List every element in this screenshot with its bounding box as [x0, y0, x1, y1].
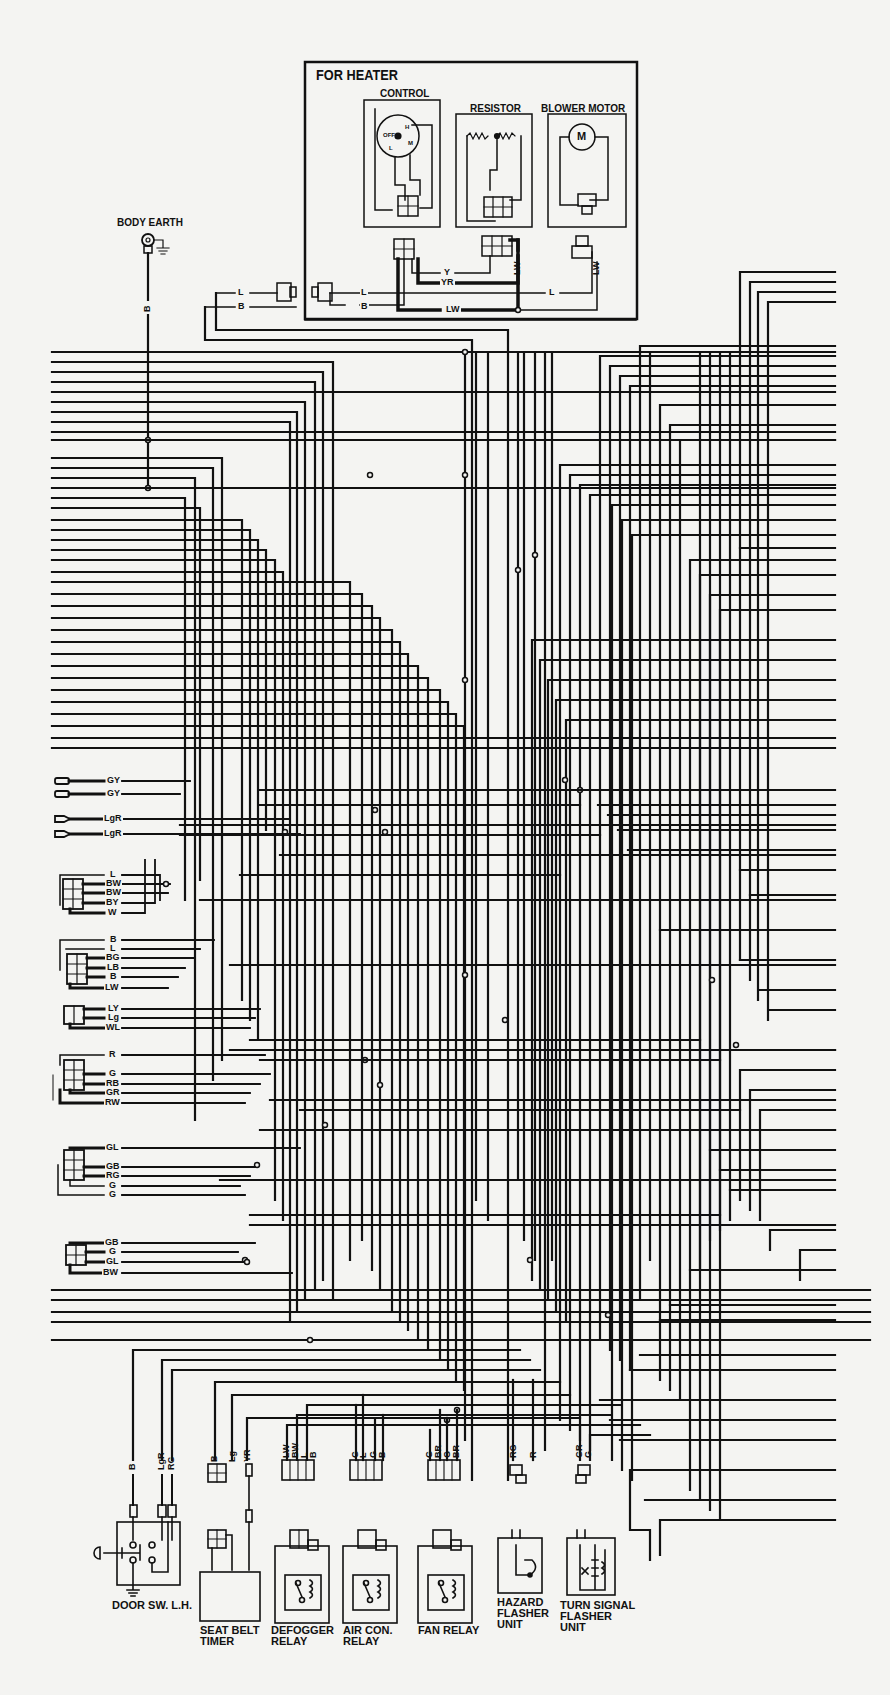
wire-label-l-right: L [548, 288, 556, 297]
defogger-relay-label: DEFOGGER RELAY [271, 1625, 331, 1647]
wire-label: B [210, 1456, 219, 1463]
wire-label: GL [105, 1257, 120, 1266]
control-label: CONTROL [380, 89, 429, 99]
wire-label: GL [105, 1143, 120, 1152]
main-harness-left [52, 352, 835, 1390]
wire-label: L [359, 1453, 368, 1459]
wire-label: RG [167, 1457, 176, 1471]
main-harness-right [532, 272, 835, 1560]
heater-title: FOR HEATER [316, 67, 398, 82]
seat-belt-timer-label: SEAT BELT TIMER [200, 1625, 262, 1647]
motor-symbol: M [577, 131, 586, 142]
wire-label: RG [105, 1171, 121, 1180]
blower-motor-label: BLOWER MOTOR [541, 104, 625, 114]
turn-signal-flasher-label: TURN SIGNAL FLASHER UNIT [560, 1600, 640, 1633]
left-connectors [53, 778, 300, 1273]
wire-label-lw-bottom: LW [445, 305, 461, 314]
wire-label: WL [105, 1023, 121, 1032]
wire-label: RW [104, 1098, 121, 1107]
wire-label: RG [509, 1445, 518, 1459]
wire-label: LgR [103, 814, 123, 823]
wire-label: BG [105, 953, 121, 962]
wire-label: GY [106, 776, 121, 785]
wire-label-lw-resistor: LW [513, 262, 522, 276]
wire-label-lw-blower: LW [592, 262, 601, 276]
resistor-label: RESISTOR [470, 104, 521, 114]
wire-label: LW [104, 983, 120, 992]
wire-label-l-left: L [237, 288, 245, 297]
wire-label: BR [452, 1445, 461, 1458]
wire-label: B [128, 1464, 137, 1471]
wire-label: B [309, 1452, 318, 1459]
wire-label: LgR [157, 1453, 166, 1471]
wire-label: Lg [107, 1013, 120, 1022]
wire-label: R [108, 1050, 117, 1059]
door-sw-label: DOOR SW. L.H. [112, 1600, 192, 1611]
wire-label: G [108, 1247, 117, 1256]
hazard-flasher-label: HAZARD FLASHER UNIT [497, 1597, 547, 1630]
bottom-harness [52, 1290, 870, 1460]
wiring-diagram [0, 0, 890, 1695]
body-earth-wire-label: B [143, 306, 152, 313]
fan-relay-label: FAN RELAY [418, 1625, 479, 1636]
wire-label: R [529, 1452, 538, 1459]
wire-label: BW [105, 888, 122, 897]
body-earth-label: BODY EARTH [117, 218, 183, 228]
wire-label-l-mid: L [360, 288, 368, 297]
wire-label: BW [102, 1268, 119, 1277]
wire-label: GR [105, 1088, 121, 1097]
control-pos-m: M [408, 140, 413, 146]
control-pos-l: L [389, 145, 393, 151]
heater-section [305, 62, 637, 319]
wire-label: LgR [103, 829, 123, 838]
wire-label: BY [105, 898, 120, 907]
wire-label: G [108, 1069, 117, 1078]
wire-label: B [378, 1452, 387, 1459]
control-pos-h: H [405, 124, 409, 130]
wire-label: YR [243, 1449, 252, 1462]
air-con-relay-label: AIR CON. RELAY [343, 1625, 399, 1647]
wire-label-y: Y [443, 268, 451, 277]
wire-label: G [584, 1451, 593, 1458]
wire-label: G [108, 1190, 117, 1199]
wire-label-b-mid: B [360, 302, 369, 311]
wire-label: Lg [228, 1451, 237, 1462]
wire-label-b-left: B [237, 302, 246, 311]
wire-label: GY [106, 789, 121, 798]
control-pos-off: OFF [383, 132, 395, 138]
wire-label-yr: YR [440, 278, 455, 287]
wire-label: B [109, 972, 118, 981]
wire-label: W [107, 908, 118, 917]
